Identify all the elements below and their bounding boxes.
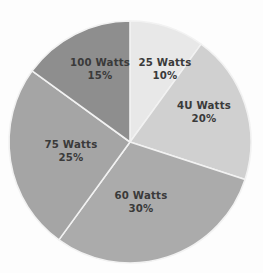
pie-slice-percent-3: 25% (59, 152, 84, 163)
pie-slice-label-0: 25 Watts (139, 57, 192, 68)
pie-slice-percent-1: 20% (192, 113, 217, 124)
pie-slice-label-3: 75 Watts (45, 139, 98, 150)
pie-chart-figure: 25 Watts10%4U Watts20%60 Watts30%75 Watt… (0, 0, 263, 273)
pie-slice-percent-4: 15% (88, 70, 113, 81)
pie-slice-percent-0: 10% (153, 70, 178, 81)
pie-slice-label-4: 100 Watts (70, 57, 130, 68)
pie-chart-svg: 25 Watts10%4U Watts20%60 Watts30%75 Watt… (0, 0, 263, 273)
pie-slice-label-2: 60 Watts (115, 190, 168, 201)
pie-slice-percent-2: 30% (129, 203, 154, 214)
pie-slice-label-1: 4U Watts (177, 100, 231, 111)
